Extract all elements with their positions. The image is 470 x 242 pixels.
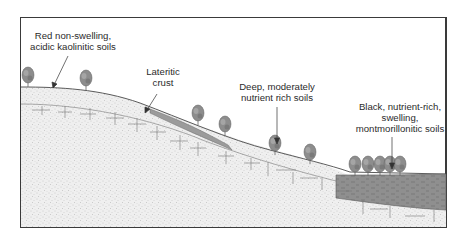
label-line: Red non-swelling, xyxy=(23,30,123,41)
label-red-soils: Red non-swelling, acidic kaolinitic soil… xyxy=(23,30,123,52)
label-line: acidic kaolinitic soils xyxy=(23,41,123,52)
label-black-soils: Black, nutrient-rich, swelling, montmori… xyxy=(350,101,450,134)
label-line: Lateritic xyxy=(138,66,188,77)
label-line: crust xyxy=(138,77,188,88)
label-line: swelling, xyxy=(350,112,450,123)
label-line: montmorillonitic soils xyxy=(350,123,450,134)
label-lateritic-crust: Lateritic crust xyxy=(138,66,188,88)
label-line: nutrient rich soils xyxy=(232,92,322,103)
label-deep-soils: Deep, moderately nutrient rich soils xyxy=(232,81,322,103)
label-line: Deep, moderately xyxy=(232,81,322,92)
label-line: Black, nutrient-rich, xyxy=(350,101,450,112)
